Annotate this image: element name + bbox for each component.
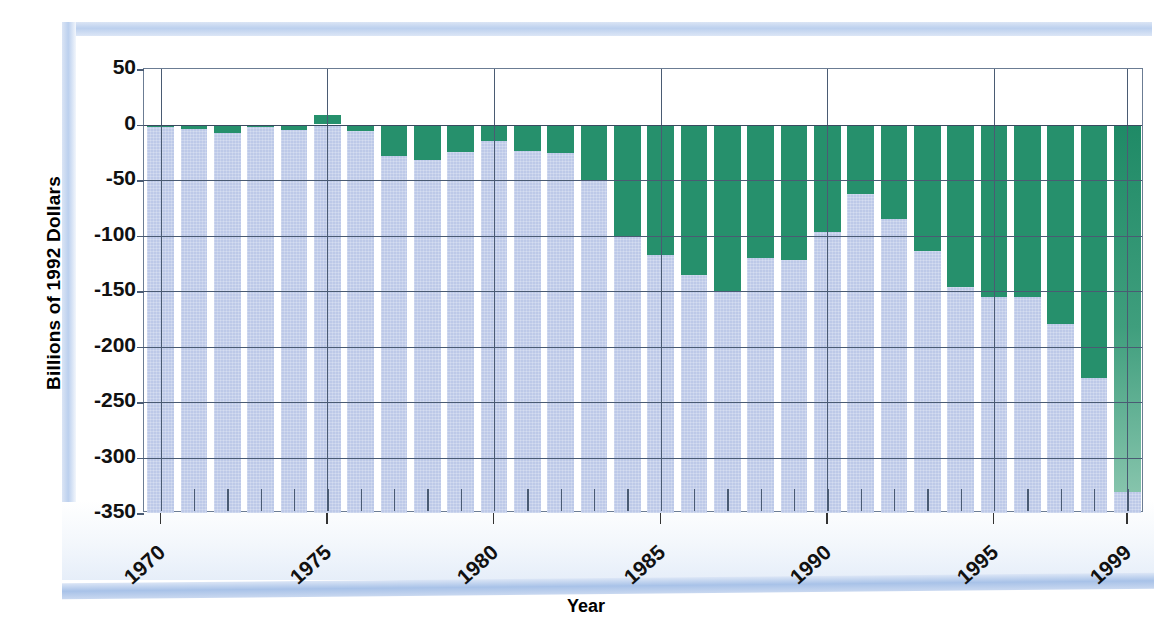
bar-column	[714, 69, 741, 511]
y-tick-label: -150	[56, 277, 136, 301]
y-tick-label: 0	[56, 111, 136, 135]
bar-1994	[947, 125, 974, 287]
y-tick-label: -50	[56, 166, 136, 190]
bar-shadow	[381, 125, 408, 514]
x-tick-outer	[326, 513, 327, 524]
y-tick-mark	[137, 402, 144, 404]
x-tick-outer	[1126, 513, 1127, 524]
x-tick-mark	[861, 489, 862, 511]
bar-1981	[514, 125, 541, 152]
x-tick-mark	[627, 489, 628, 511]
x-tick-mark	[527, 489, 528, 511]
x-tick-mark	[1027, 489, 1028, 511]
bar-1989	[781, 125, 808, 260]
y-tick-label: -300	[56, 444, 136, 468]
bar-column	[747, 69, 774, 511]
x-tick-mark	[827, 489, 828, 511]
x-tick-outer	[826, 513, 827, 524]
bar-column	[447, 69, 474, 511]
major-vertical-line	[161, 69, 162, 511]
bar-shadow	[447, 125, 474, 514]
x-tick-mark	[1127, 489, 1128, 511]
bar-1996	[1014, 125, 1041, 297]
bar-shadow	[281, 125, 308, 514]
gridline	[144, 291, 1142, 292]
x-tick-outer	[160, 513, 161, 524]
x-tick-mark	[261, 489, 262, 511]
x-tick-mark	[161, 489, 162, 511]
x-tick-mark	[1094, 489, 1095, 511]
bar-1992	[881, 125, 908, 219]
x-tick-mark	[427, 489, 428, 511]
bar-1987	[714, 125, 741, 292]
major-vertical-line	[661, 69, 662, 511]
bar-column	[1047, 69, 1074, 511]
y-tick-mark	[137, 180, 144, 182]
bar-column	[581, 69, 608, 511]
gridline	[144, 458, 1142, 459]
x-tick-mark	[727, 489, 728, 511]
x-tick-mark	[494, 489, 495, 511]
bar-column	[281, 69, 308, 511]
gridline	[144, 402, 1142, 403]
major-vertical-line	[327, 69, 328, 511]
x-tick-mark	[194, 489, 195, 511]
y-tick-mark	[137, 125, 144, 127]
major-vertical-line	[827, 69, 828, 511]
bar-column	[614, 69, 641, 511]
gridline	[144, 236, 1142, 237]
bar-column	[181, 69, 208, 511]
x-tick-mark	[361, 489, 362, 511]
bar-column	[847, 69, 874, 511]
x-tick-mark	[761, 489, 762, 511]
bar-1998	[1081, 125, 1108, 378]
x-tick-mark	[927, 489, 928, 511]
bar-1986	[681, 125, 708, 276]
bar-shadow	[347, 125, 374, 514]
bar-column	[514, 69, 541, 511]
chart-figure: Billions of 1992 Dollars Year 500-50-100…	[0, 0, 1172, 624]
y-tick-mark	[137, 236, 144, 238]
bar-1978	[414, 125, 441, 161]
y-tick-mark	[137, 69, 144, 71]
x-tick-mark	[1061, 489, 1062, 511]
bar-1977	[381, 125, 408, 156]
x-tick-mark	[461, 489, 462, 511]
bar-column	[347, 69, 374, 511]
bar-column	[781, 69, 808, 511]
bar-shadow	[214, 125, 241, 514]
x-tick-outer	[660, 513, 661, 524]
x-tick-mark	[227, 489, 228, 511]
y-tick-label: -200	[56, 333, 136, 357]
major-vertical-line	[494, 69, 495, 511]
bar-shadow	[581, 125, 608, 514]
y-tick-mark	[137, 291, 144, 293]
bar-column	[547, 69, 574, 511]
bar-column	[414, 69, 441, 511]
x-tick-mark	[294, 489, 295, 511]
gridline	[144, 180, 1142, 181]
decorative-frame-top	[62, 22, 1152, 36]
bar-1988	[747, 125, 774, 258]
bar-column	[1014, 69, 1041, 511]
major-vertical-line	[1127, 69, 1128, 511]
x-tick-mark	[661, 489, 662, 511]
x-tick-outer	[493, 513, 494, 524]
bar-column	[247, 69, 274, 511]
bar-column	[681, 69, 708, 511]
x-tick-mark	[961, 489, 962, 511]
x-tick-outer	[993, 513, 994, 524]
bar-shadow	[547, 125, 574, 514]
y-tick-label: -350	[56, 499, 136, 523]
y-tick-mark	[137, 513, 144, 515]
bars-layer	[144, 69, 1142, 511]
x-axis-title: Year	[0, 596, 1172, 617]
bar-column	[914, 69, 941, 511]
bar-shadow	[514, 125, 541, 514]
x-tick-mark	[594, 489, 595, 511]
x-tick-mark	[394, 489, 395, 511]
bar-1993	[914, 125, 941, 252]
bar-1982	[547, 125, 574, 154]
x-tick-mark	[894, 489, 895, 511]
bar-shadow	[414, 125, 441, 514]
